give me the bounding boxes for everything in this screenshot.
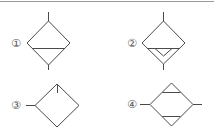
symbol-diagram [0,0,218,135]
symbol-3 [26,84,79,127]
symbol-1 [27,12,70,70]
symbol-label-3: ③ [11,100,21,111]
symbol-2 [142,12,185,70]
symbol-label-4: ④ [127,99,137,110]
symbol-4 [140,83,202,126]
symbol-label-1: ① [11,38,21,49]
symbol-label-2: ② [127,38,137,49]
